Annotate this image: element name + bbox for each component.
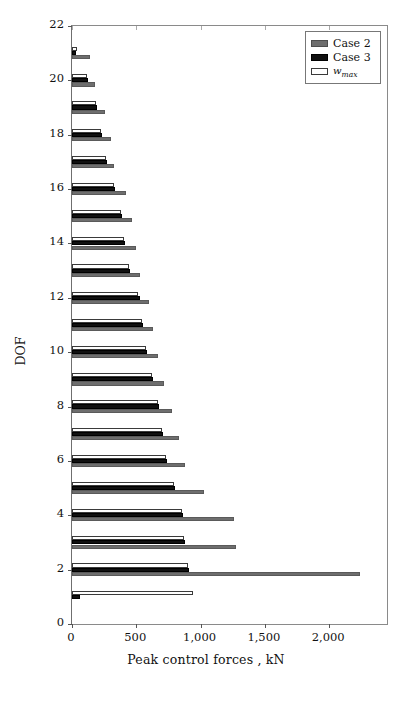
bar-case2-dof-16: [72, 191, 126, 195]
legend-label-wmax-symbol: w: [333, 65, 342, 76]
bar-case2-dof-19: [72, 110, 105, 114]
x-axis-tick: [72, 624, 73, 628]
bar-case2-dof-21: [72, 55, 90, 59]
plot-area: [72, 26, 387, 624]
y-axis-tick: [68, 243, 72, 244]
y-axis-tick: [68, 624, 72, 625]
y-axis-tick: [68, 461, 72, 462]
bar-case2-dof-20: [72, 82, 95, 86]
x-axis-title: Peak control forces , kN: [0, 652, 412, 667]
x-axis-tick: [136, 624, 137, 628]
y-axis-title: DOF: [13, 336, 28, 365]
bar-case2-dof-12: [72, 300, 149, 304]
chart-legend: Case 2 Case 3 wmax: [305, 31, 381, 84]
x-axis-tick-inner: [329, 26, 330, 30]
x-axis-tick-label: 2,000: [312, 630, 345, 644]
y-axis-tick: [68, 570, 72, 571]
legend-swatch-case-3: [311, 54, 328, 61]
y-axis-tick: [68, 298, 72, 299]
x-axis-tick-inner: [136, 26, 137, 30]
bar-case2-dof-6: [72, 463, 185, 467]
legend-item-case-3: Case 3: [311, 51, 376, 64]
y-axis-tick: [68, 26, 72, 27]
legend-label-case-2: Case 2: [333, 37, 371, 50]
bar-case2-dof-2: [72, 572, 360, 576]
plot-frame: [71, 25, 388, 625]
y-axis-tick: [68, 515, 72, 516]
y-axis-tick: [68, 135, 72, 136]
legend-label-case-3: Case 3: [333, 51, 371, 64]
bar-wmax-dof-1: [72, 591, 193, 595]
y-axis-tick: [68, 352, 72, 353]
bar-case2-dof-4: [72, 517, 234, 521]
x-axis-tick-inner: [201, 26, 202, 30]
bar-case2-dof-10: [72, 354, 158, 358]
y-axis-tick: [68, 80, 72, 81]
x-axis-tick: [265, 624, 266, 628]
bar-case3-dof-1: [72, 595, 80, 599]
legend-item-wmax: wmax: [311, 65, 376, 78]
legend-label-wmax: wmax: [333, 65, 357, 79]
bar-case2-dof-7: [72, 436, 179, 440]
bar-case2-dof-17: [72, 164, 114, 168]
x-axis-tick-label: 500: [124, 630, 146, 644]
x-axis-tick: [329, 624, 330, 628]
bar-case2-dof-5: [72, 490, 204, 494]
x-axis-tick-label: 1,500: [247, 630, 280, 644]
legend-label-wmax-subscript: max: [342, 70, 358, 79]
x-axis-tick: [201, 624, 202, 628]
legend-item-case-2: Case 2: [311, 37, 376, 50]
x-axis-tick-inner: [72, 26, 73, 30]
bar-case2-dof-13: [72, 273, 140, 277]
bar-case2-dof-8: [72, 409, 172, 413]
bar-case2-dof-15: [72, 218, 132, 222]
bar-case2-dof-14: [72, 246, 136, 250]
bar-case2-dof-18: [72, 137, 111, 141]
legend-swatch-wmax: [311, 68, 328, 75]
chart-figure: DOF Peak control forces , kN 05001,0001,…: [0, 0, 412, 701]
x-axis-tick-label: 0: [67, 630, 74, 644]
y-axis-tick: [68, 407, 72, 408]
bar-case2-dof-11: [72, 327, 153, 331]
bar-case2-dof-9: [72, 381, 164, 385]
y-axis-tick: [68, 189, 72, 190]
x-axis-tick-label: 1,000: [183, 630, 216, 644]
x-axis-tick-inner: [265, 26, 266, 30]
legend-swatch-case-2: [311, 40, 328, 47]
bar-case2-dof-3: [72, 545, 236, 549]
